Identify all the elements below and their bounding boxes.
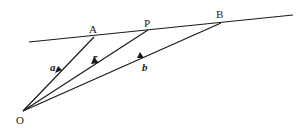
label-vector-r: r: [93, 51, 98, 63]
vector-diagram: A P B O a r b: [0, 0, 307, 131]
vector-a-line: [23, 37, 94, 111]
label-A: A: [89, 23, 97, 35]
label-vector-a: a: [50, 61, 56, 73]
vector-r-line: [23, 30, 148, 111]
label-vector-b: b: [142, 61, 148, 73]
label-O: O: [16, 114, 24, 126]
arrowhead-b-icon: [137, 52, 144, 58]
label-P: P: [144, 17, 150, 29]
label-B: B: [216, 8, 223, 20]
line-through-A-P-B: [29, 15, 293, 42]
